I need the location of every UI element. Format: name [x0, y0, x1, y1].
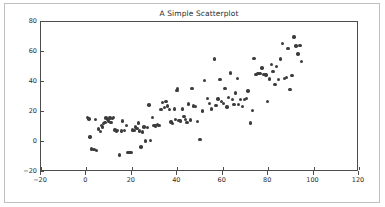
scatter-point	[251, 109, 254, 112]
y-tick-label: 60	[29, 47, 37, 55]
scatter-point	[123, 129, 126, 132]
scatter-point	[101, 125, 104, 128]
scatter-point	[213, 57, 216, 60]
scatter-point	[196, 120, 199, 123]
x-tick-mark	[85, 171, 86, 175]
scatter-point	[249, 121, 252, 124]
scatter-point	[286, 47, 289, 50]
x-tick-mark	[313, 171, 314, 175]
x-tick-mark	[267, 171, 268, 175]
scatter-point	[87, 117, 90, 120]
scatter-point	[271, 70, 274, 73]
scatter-point	[239, 98, 242, 101]
scatter-point	[88, 135, 91, 138]
scatter-point	[252, 57, 255, 60]
scatter-point	[275, 65, 278, 68]
scatter-point	[258, 72, 261, 75]
y-axis-tick-labels: −20020406080	[10, 21, 37, 171]
y-tick-mark	[40, 51, 44, 52]
scatter-point	[130, 151, 133, 154]
scatter-point	[149, 139, 152, 142]
scatter-point	[185, 121, 188, 124]
x-tick-label: 100	[306, 176, 318, 184]
x-tick-label: −20	[33, 176, 47, 184]
x-tick-mark-inner	[132, 167, 133, 171]
y-tick-label: 80	[29, 17, 37, 25]
y-tick-mark	[40, 111, 44, 112]
scatter-point	[173, 107, 176, 110]
x-tick-label: 20	[127, 176, 135, 184]
scatter-point	[139, 145, 142, 148]
y-tick-mark	[40, 141, 44, 142]
chart-title: A Simple Scatterplot	[40, 9, 358, 18]
scatter-point	[198, 138, 201, 141]
scatter-point	[179, 119, 182, 122]
y-tick-label: 0	[33, 137, 37, 145]
scatter-point	[245, 97, 248, 100]
scatter-point	[121, 119, 124, 122]
scatter-point	[187, 102, 190, 105]
scatter-point	[214, 104, 217, 107]
scatter-point	[270, 63, 273, 66]
scatter-point	[260, 66, 263, 69]
scatter-point	[94, 118, 97, 121]
x-tick-mark-inner	[268, 167, 269, 171]
scatter-point	[298, 44, 301, 47]
scatter-point	[116, 129, 119, 132]
scatter-point	[232, 103, 235, 106]
scatter-points-layer	[41, 22, 357, 170]
scatter-point	[236, 77, 239, 80]
scatter-point	[147, 103, 150, 106]
scatter-point	[118, 153, 121, 156]
x-tick-label: 80	[263, 176, 271, 184]
scatter-point	[290, 74, 293, 77]
scatter-point	[246, 89, 249, 92]
scatter-point	[144, 139, 147, 142]
scatter-point	[300, 60, 303, 63]
y-tick-mark	[40, 171, 44, 172]
scatter-point	[151, 116, 154, 119]
scatter-point	[210, 107, 213, 110]
scatter-point	[277, 78, 280, 81]
scatter-point	[273, 83, 276, 86]
x-tick-label: 0	[83, 176, 87, 184]
x-tick-mark-inner	[177, 167, 178, 171]
scatter-point	[189, 118, 192, 121]
x-tick-mark	[222, 171, 223, 175]
x-tick-mark	[131, 171, 132, 175]
x-tick-mark-inner	[314, 167, 315, 171]
scatter-point	[292, 35, 295, 38]
scatter-point	[181, 107, 184, 110]
scatter-point	[201, 109, 204, 112]
scatter-point	[137, 121, 140, 124]
scatter-point	[225, 105, 228, 108]
scatter-point	[146, 126, 149, 129]
scatter-point	[194, 105, 197, 108]
x-tick-label: 120	[352, 176, 364, 184]
scatter-point	[112, 116, 115, 119]
scatter-point	[159, 108, 162, 111]
scatter-point	[281, 42, 284, 45]
scatter-point	[168, 108, 171, 111]
scatter-point	[164, 100, 167, 103]
scatter-point	[227, 96, 230, 99]
scatter-point	[125, 124, 128, 127]
x-tick-mark-inner	[86, 167, 87, 171]
scatter-point	[279, 57, 282, 60]
scatter-point	[234, 91, 237, 94]
scatter-point	[288, 88, 291, 91]
scatter-point	[206, 97, 209, 100]
x-tick-mark	[358, 171, 359, 175]
y-tick-mark	[40, 81, 44, 82]
x-tick-mark-inner	[223, 167, 224, 171]
scatter-point	[241, 105, 244, 108]
plot-area	[40, 21, 358, 171]
scatter-point	[99, 130, 102, 133]
y-tick-label: 40	[29, 77, 37, 85]
scatter-point	[208, 102, 211, 105]
scatter-point	[157, 124, 160, 127]
scatter-point	[223, 87, 226, 90]
scatter-point	[171, 122, 174, 125]
x-axis-ticks	[40, 171, 358, 175]
scatter-point	[109, 121, 112, 124]
